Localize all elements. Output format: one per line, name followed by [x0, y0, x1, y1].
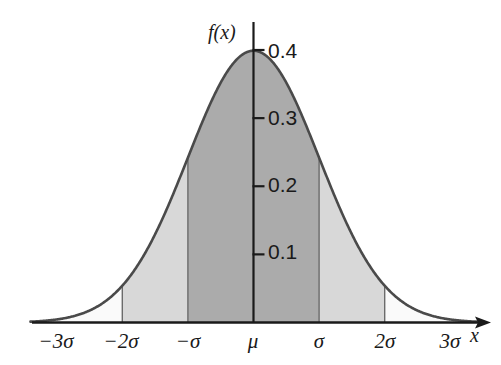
x-tick-label-sigma: σ	[314, 331, 324, 352]
x-tick-label-mu: μ	[248, 331, 259, 352]
plot-canvas	[0, 0, 501, 365]
x-tick-label-2-sigma: 2σ	[375, 331, 396, 352]
y-tick-label-0.1: 0.1	[268, 241, 297, 262]
x-axis-label: x	[470, 325, 479, 345]
y-tick-label-0.2: 0.2	[268, 174, 297, 195]
y-tick-label-0.4: 0.4	[268, 40, 297, 61]
normal-distribution-figure: f(x) 0.4 0.3 0.2 0.1 −3σ −2σ −σ μ σ 2σ 3…	[0, 0, 501, 365]
x-tick-label-3-sigma: 3σ	[440, 331, 461, 352]
x-tick-label-minus-2-sigma: −2σ	[103, 331, 138, 352]
y-axis-label: f(x)	[208, 22, 236, 42]
x-tick-label-minus-3-sigma: −3σ	[38, 331, 73, 352]
x-tick-label-minus-sigma: −σ	[176, 331, 201, 352]
tail-region-right-fill	[385, 286, 477, 323]
tail-region-left-fill	[30, 286, 122, 323]
y-tick-label-0.3: 0.3	[268, 107, 297, 128]
